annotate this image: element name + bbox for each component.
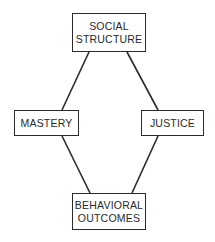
edge-social-structure-to-mastery	[62, 52, 89, 110]
node-label-line: SOCIAL	[76, 20, 143, 33]
edge-justice-to-behavioral-outcomes	[132, 136, 158, 193]
node-label-line: OUTCOMES	[75, 212, 143, 225]
node-label-line: BEHAVIORAL	[75, 199, 143, 212]
node-label-line: JUSTICE	[150, 117, 195, 130]
node-mastery: MASTERY	[14, 110, 79, 136]
edge-mastery-to-behavioral-outcomes	[62, 136, 90, 193]
node-behavioral-outcomes: BEHAVIORAL OUTCOMES	[72, 193, 146, 230]
node-social-structure: SOCIAL STRUCTURE	[72, 13, 146, 52]
node-justice: JUSTICE	[141, 110, 204, 136]
node-label-line: STRUCTURE	[76, 33, 143, 46]
edge-social-structure-to-justice	[127, 52, 158, 110]
node-label-line: MASTERY	[21, 117, 73, 130]
